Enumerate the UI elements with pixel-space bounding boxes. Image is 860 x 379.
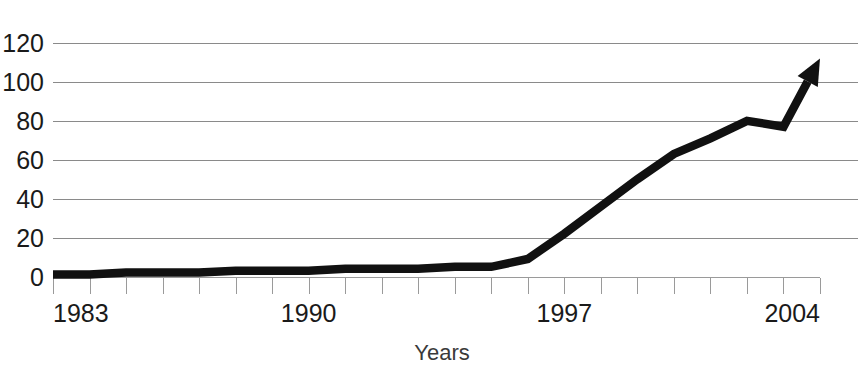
y-tick-label: 100 (2, 68, 44, 96)
line-chart: 020406080100120 1983199019972004 Years (0, 0, 860, 379)
gridlines-group (53, 44, 858, 239)
x-tick-label: 2004 (764, 299, 820, 327)
y-tick-labels-group: 020406080100120 (2, 29, 44, 291)
data-series-line (53, 82, 808, 275)
y-tick-label: 20 (16, 224, 44, 252)
y-tick-label: 60 (16, 146, 44, 174)
y-tick-label: 40 (16, 185, 44, 213)
x-tickmarks-group (54, 278, 821, 294)
y-tick-label: 80 (16, 107, 44, 135)
x-tick-label: 1983 (53, 299, 109, 327)
x-tick-label: 1990 (281, 299, 337, 327)
x-axis-title: Years (414, 340, 469, 365)
y-tick-label: 120 (2, 29, 44, 57)
x-tick-label: 1997 (537, 299, 593, 327)
chart-canvas: 020406080100120 1983199019972004 Years (0, 0, 860, 379)
x-tick-labels-group: 1983199019972004 (53, 299, 820, 327)
y-tick-label: 0 (30, 263, 44, 291)
